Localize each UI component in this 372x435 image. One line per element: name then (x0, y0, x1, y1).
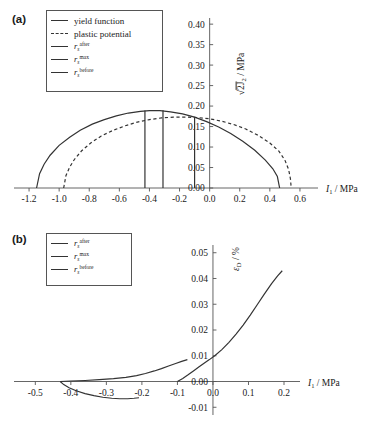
x-tick-label: 0.0 (207, 388, 219, 398)
x-tick-label: -0.2 (172, 194, 187, 204)
y-axis-title: εD / % (231, 247, 242, 271)
y-tick-label: 0.00 (188, 183, 205, 193)
x-tick-label: 0.0 (204, 194, 216, 204)
svg-text:√2J2 / MPa: √2J2 / MPa (236, 52, 247, 95)
y-tick-label: 0.04 (191, 274, 208, 284)
y-tick-label: 0.03 (191, 300, 208, 310)
y-tick-label: 0.20 (188, 101, 205, 111)
svg-text:εD / %: εD / % (231, 247, 242, 271)
panel-b-plot: -0.5-0.4-0.3-0.2-0.10.00.10.2-0.010.000.… (0, 215, 372, 435)
x-tick-label: -0.8 (82, 194, 97, 204)
x-tick-label: -0.6 (112, 194, 127, 204)
x-tick-label: 0.2 (234, 194, 246, 204)
panel-a-plot: -1.2-1.0-0.8-0.6-0.4-0.20.00.20.40.60.00… (0, 0, 372, 215)
x-tick-label: 0.2 (278, 388, 290, 398)
y-tick-label: 0.15 (188, 122, 205, 132)
data-curve (60, 360, 187, 382)
x-tick-label: 0.4 (264, 194, 276, 204)
y-tick-label: 0.40 (188, 20, 205, 30)
x-tick-label: -0.3 (99, 388, 114, 398)
y-tick-label: 0.00 (191, 377, 208, 387)
y-tick-label: 0.10 (188, 142, 205, 152)
data-curve (37, 111, 280, 188)
y-tick-label: 0.30 (188, 61, 205, 71)
x-axis-title: I1 / MPa (307, 378, 341, 389)
x-tick-label: -0.5 (28, 388, 43, 398)
x-axis-title: I1 / MPa (325, 184, 359, 195)
x-tick-label: -0.1 (170, 388, 185, 398)
y-tick-label: 0.02 (191, 325, 208, 335)
y-tick-label: 0.01 (191, 351, 208, 361)
y-tick-label: 0.05 (188, 163, 205, 173)
x-tick-label: -1.2 (22, 194, 37, 204)
x-tick-label: 0.6 (294, 194, 306, 204)
y-tick-label: 0.35 (188, 40, 205, 50)
x-tick-label: 0.1 (243, 388, 255, 398)
y-tick-label: -0.01 (188, 403, 208, 413)
y-axis-title: √2J2 / MPa (236, 52, 247, 95)
y-tick-label: 0.05 (191, 248, 208, 258)
panel-b: (b) rsafterrsmaxrsbefore -0.5-0.4-0.3-0.… (0, 215, 372, 435)
panel-a: (a) yield functionplastic potentialrsaft… (0, 0, 372, 215)
y-tick-label: 0.25 (188, 81, 205, 91)
x-tick-label: -0.4 (142, 194, 157, 204)
x-tick-label: -1.0 (52, 194, 67, 204)
x-tick-label: -0.2 (134, 388, 149, 398)
